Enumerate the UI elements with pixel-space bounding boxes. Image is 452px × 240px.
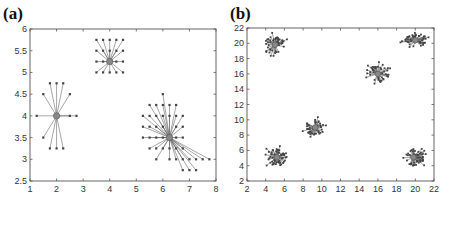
x-tick-label: 4 — [107, 184, 112, 194]
data-point — [122, 71, 124, 73]
data-point — [425, 38, 427, 40]
data-point — [208, 158, 210, 160]
data-point — [271, 161, 273, 163]
data-point — [109, 39, 111, 41]
data-point — [265, 40, 267, 42]
data-point — [109, 50, 111, 52]
data-point — [412, 149, 414, 151]
data-point — [168, 158, 170, 160]
data-point — [380, 81, 382, 83]
data-point — [365, 76, 367, 78]
data-point — [377, 77, 379, 79]
y-tick-label: 3.5 — [14, 133, 27, 143]
data-point — [115, 71, 117, 73]
data-point — [422, 153, 424, 155]
data-point — [409, 163, 411, 165]
data-point — [102, 50, 104, 52]
data-point — [367, 65, 369, 67]
data-point — [268, 44, 270, 46]
data-point — [276, 148, 278, 150]
data-point — [425, 153, 427, 155]
data-point — [162, 126, 164, 128]
data-point — [409, 154, 411, 156]
data-point — [412, 34, 414, 36]
y-tick-label: 4 — [239, 161, 244, 171]
data-point — [268, 151, 270, 153]
data-point — [69, 93, 71, 95]
data-point — [423, 164, 425, 166]
data-point — [95, 71, 97, 73]
data-point — [175, 104, 177, 106]
data-point — [421, 148, 423, 150]
data-point — [265, 43, 267, 45]
data-point — [195, 158, 197, 160]
data-point — [155, 158, 157, 160]
data-point — [384, 67, 386, 69]
data-point — [148, 136, 150, 138]
data-point — [375, 66, 377, 68]
data-point — [155, 115, 157, 117]
data-point — [282, 152, 284, 154]
x-tick-label: 16 — [373, 184, 383, 194]
cluster-center — [312, 125, 318, 131]
cluster-edge — [170, 138, 183, 171]
data-point — [270, 153, 272, 155]
data-point — [102, 60, 104, 62]
data-point — [422, 44, 424, 46]
data-point — [417, 154, 419, 156]
data-point — [270, 36, 272, 38]
data-point — [278, 38, 280, 40]
y-tick-label: 10 — [234, 115, 244, 125]
data-point — [319, 123, 321, 125]
x-tick-label: 8 — [213, 184, 218, 194]
y-tick-label: 3 — [22, 154, 27, 164]
data-point — [42, 93, 44, 95]
data-point — [420, 34, 422, 36]
data-point — [416, 161, 418, 163]
data-point — [314, 122, 316, 124]
data-point — [267, 47, 269, 49]
data-point — [366, 69, 368, 71]
data-point — [268, 159, 270, 161]
data-point — [62, 82, 64, 84]
data-point — [420, 159, 422, 161]
cluster-1 — [36, 82, 78, 149]
data-point — [318, 130, 320, 132]
data-point — [386, 70, 388, 72]
data-point — [270, 55, 272, 57]
data-point — [142, 126, 144, 128]
data-point — [417, 151, 419, 153]
data-point — [202, 158, 204, 160]
x-tick-label: 2 — [244, 184, 249, 194]
data-point — [420, 161, 422, 163]
data-point — [309, 127, 311, 129]
y-tick-label: 4.5 — [14, 89, 27, 99]
data-point — [269, 52, 271, 54]
data-point — [175, 147, 177, 149]
data-point — [267, 41, 269, 43]
data-point — [272, 164, 274, 166]
data-point — [162, 136, 164, 138]
data-point — [387, 76, 389, 78]
x-tick-label: 8 — [301, 184, 306, 194]
data-point — [423, 150, 425, 152]
cluster-3 — [142, 93, 211, 171]
x-tick-label: 3 — [81, 184, 86, 194]
data-point — [414, 32, 416, 34]
data-point — [317, 116, 319, 118]
data-point — [424, 42, 426, 44]
data-point — [49, 147, 51, 149]
data-point — [162, 147, 164, 149]
data-point — [377, 79, 379, 81]
data-point — [380, 68, 382, 70]
data-point — [325, 125, 327, 127]
data-point — [283, 161, 285, 163]
data-point — [407, 41, 409, 43]
x-tick-label: 18 — [392, 184, 402, 194]
data-point — [320, 132, 322, 134]
data-point — [182, 158, 184, 160]
cluster-center — [53, 113, 59, 119]
data-point — [273, 38, 275, 40]
data-point — [269, 41, 271, 43]
data-point — [168, 104, 170, 106]
